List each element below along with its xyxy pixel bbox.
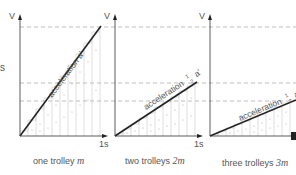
y-axis-arrow-icon [18, 14, 22, 20]
velocity-line [210, 100, 296, 136]
panel-three-trolleys [208, 14, 296, 140]
strip-dots [32, 50, 97, 132]
x-axis-arrow-icon [102, 134, 108, 138]
line-label-one-trolley: acceleration a' [46, 49, 87, 99]
caption-mass: m [77, 155, 84, 166]
y-axis-label-v: V [104, 11, 110, 21]
caption-two-trolleys: two trolleys 2m [125, 155, 185, 166]
y-axis-label-v: V [199, 11, 205, 21]
x-axis-end-label: 1s [194, 139, 204, 149]
y-axis-label-v: V [9, 11, 15, 21]
dashed-reference-lines [20, 27, 296, 101]
x-axis-end-label: 1s [99, 139, 109, 149]
caption-one-trolley: one trolley m [33, 155, 84, 166]
velocity-line [115, 82, 197, 136]
caption-mass: 2m [173, 155, 185, 166]
caption-mass: 3m [276, 157, 288, 168]
caption-text: two trolleys [125, 156, 173, 166]
caption-three-trolleys: three trolleys 3m [222, 157, 288, 168]
y-axis-arrow-icon [113, 14, 117, 20]
line-label-three-trolleys: acceleration 1 3 a' [235, 84, 296, 125]
velocity-time-diagram: acceleration a' acceleration 1 2 a' acce… [0, 0, 296, 175]
edge-label-left: s [0, 62, 5, 73]
caption-text: three trolleys [222, 158, 276, 168]
x-axis-arrow-icon [197, 134, 203, 138]
caption-text: one trolley [33, 156, 77, 166]
y-axis-arrow-icon [208, 14, 212, 20]
x-axis-arrow-icon [291, 132, 296, 140]
